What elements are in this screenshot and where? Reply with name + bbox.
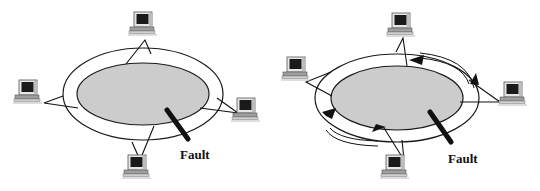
workstation-right-icon bbox=[498, 82, 527, 105]
workstation-top-icon bbox=[128, 12, 157, 35]
diagram-left: Fault bbox=[13, 12, 260, 178]
inner-ring bbox=[77, 63, 209, 125]
workstation-right-icon bbox=[231, 98, 260, 121]
inner-ring bbox=[331, 66, 463, 130]
fault-label-left: Fault bbox=[180, 147, 210, 162]
workstation-bottom-icon bbox=[122, 155, 151, 178]
workstation-top-icon bbox=[386, 13, 415, 36]
workstation-bottom-icon bbox=[380, 155, 409, 178]
workstation-left-icon bbox=[281, 57, 310, 80]
dual-ring-diagram: Fault Fault bbox=[0, 0, 540, 191]
fault-label-right: Fault bbox=[448, 151, 478, 166]
diagram-right: Fault bbox=[281, 13, 527, 178]
workstation-left-icon bbox=[13, 80, 42, 103]
